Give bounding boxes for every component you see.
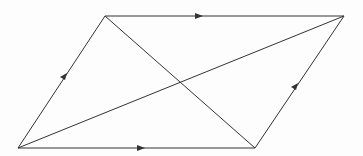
right-edge [255,16,344,148]
arrow-top-icon [195,13,203,19]
diagonal-main [18,16,344,148]
parallelogram-diagram [0,0,363,156]
left-edge [18,16,105,148]
arrow-left-icon [60,73,67,80]
diagonal-cross [105,16,255,148]
arrow-bottom-icon [137,145,145,151]
arrow-right-icon [291,83,298,90]
